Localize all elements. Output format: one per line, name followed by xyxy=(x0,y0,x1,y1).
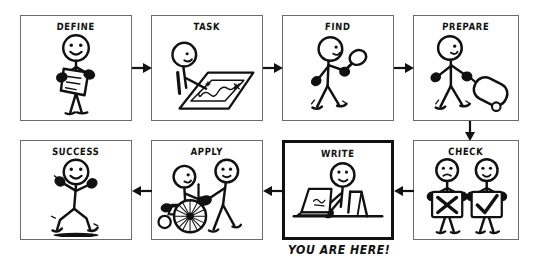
arrow-find-to-prepare xyxy=(394,61,414,75)
panel-apply[interactable]: APPLY xyxy=(151,140,263,240)
you-are-here-label: YOU ARE HERE! xyxy=(288,243,390,258)
panel-prepare[interactable]: PREPARE xyxy=(413,15,519,121)
panel-check[interactable]: CHECK xyxy=(413,140,519,240)
figure-prepare-suitcase xyxy=(416,31,516,118)
arrow-apply-to-success xyxy=(132,184,152,198)
panel-find[interactable]: FIND xyxy=(282,15,394,121)
figure-success-running xyxy=(23,156,129,237)
figure-find-magnifying-glass xyxy=(285,31,391,118)
arrow-check-to-write xyxy=(394,184,414,198)
arrow-prepare-to-check xyxy=(463,121,477,141)
panel-write[interactable]: WRITE xyxy=(282,140,394,240)
figure-task-studying-map xyxy=(154,31,260,118)
figure-define-holding-clipboard xyxy=(23,31,129,118)
process-flow-diagram: DEFINE xyxy=(0,0,536,270)
arrow-define-to-task xyxy=(132,61,152,75)
panel-task[interactable]: TASK xyxy=(151,15,263,121)
panel-define[interactable]: DEFINE xyxy=(20,15,132,121)
figure-check-two-signs xyxy=(416,156,516,237)
figure-write-at-laptop xyxy=(287,158,389,235)
arrow-write-to-apply xyxy=(263,184,283,198)
figure-apply-wheelchair xyxy=(154,156,260,237)
panel-success[interactable]: SUCCESS xyxy=(20,140,132,240)
arrow-task-to-find xyxy=(263,61,283,75)
